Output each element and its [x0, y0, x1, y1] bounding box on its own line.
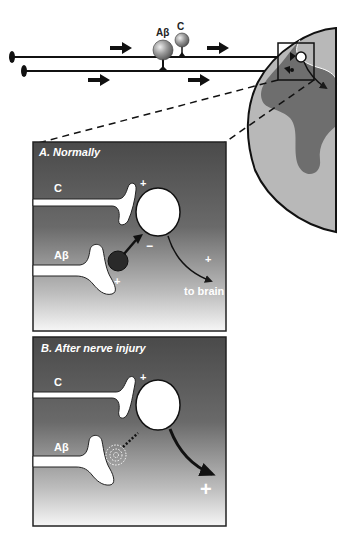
- panel-a-to-brain: to brain: [184, 285, 225, 297]
- panel-b-title: B. After nerve injury: [41, 342, 147, 354]
- overview-c-label: C: [177, 21, 184, 32]
- arrow-right-icon: [88, 74, 110, 86]
- arrow-right-icon: [188, 74, 210, 86]
- abeta-cell-body: [153, 40, 173, 70]
- panel-a-plus-c: +: [140, 177, 146, 189]
- arrow-right-icon: [110, 42, 132, 54]
- interneuron-dot: [290, 68, 294, 72]
- panel-b-plus-output: +: [200, 478, 212, 500]
- panel-a-abeta-label: Aβ: [54, 249, 69, 261]
- projection-neuron: [296, 52, 306, 62]
- arrow-right-icon: [207, 42, 229, 54]
- panel-a-c-label: C: [54, 182, 62, 194]
- panel-b-abeta-label: Aβ: [54, 441, 69, 453]
- panel-b-after-injury: B. After nerve injury C + Aβ +: [33, 337, 226, 526]
- overview-abeta-label: Aβ: [156, 27, 169, 38]
- pain-gate-diagram: Aβ C A. Normally C: [0, 0, 351, 535]
- panel-a-plus-abeta: +: [114, 275, 120, 287]
- panel-b-plus-c: +: [140, 371, 146, 383]
- panel-b-c-label: C: [54, 376, 62, 388]
- panel-a-plus-output: +: [205, 253, 211, 265]
- panel-a-title: A. Normally: [38, 146, 101, 158]
- panel-a-projection-neuron: [136, 188, 180, 236]
- panel-a-normally: A. Normally C Aβ + − + + to brain: [33, 142, 226, 331]
- spinal-cord-section: [248, 28, 337, 232]
- overview-fibers: Aβ C: [9, 21, 290, 86]
- c-cell-body: [175, 33, 189, 56]
- panel-b-projection-neuron: [136, 380, 180, 430]
- panel-a-minus: −: [146, 239, 153, 253]
